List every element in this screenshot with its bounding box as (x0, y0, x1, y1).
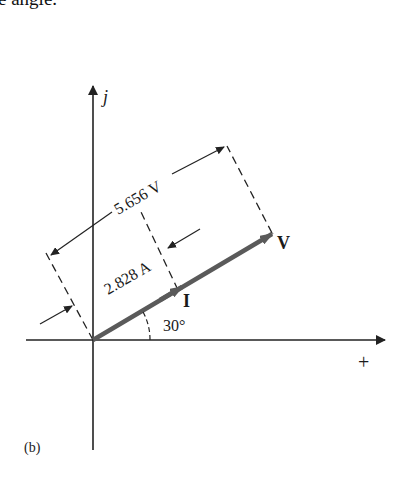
angle-arc (143, 312, 150, 340)
i-phasor-label: I (183, 291, 190, 311)
axes (26, 86, 385, 450)
figure-label: (b) (24, 440, 40, 456)
j-axis-label: j (101, 87, 108, 107)
i-tip-extension-line (141, 212, 178, 290)
dimension-extension-lines (46, 146, 272, 340)
i-magnitude-label: 2.828 A (101, 257, 154, 297)
v-tip-extension-line (227, 146, 272, 233)
i-phasor-arrowhead (160, 287, 182, 300)
real-axis-label: + (358, 351, 369, 373)
v-magnitude-label: 5.656 V (111, 177, 164, 218)
angle-label: 30° (163, 317, 185, 334)
origin-extension-line (46, 253, 93, 340)
v-phasor-label: V (277, 233, 290, 253)
phasor-diagram: j + V I 30° 5.656 V 2.828 A (0, 0, 393, 482)
